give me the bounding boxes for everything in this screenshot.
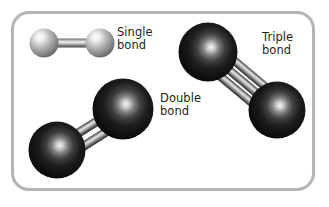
- triple-bond-atom-upper-left: [179, 23, 238, 82]
- label-triple-bond: Triple bond: [262, 31, 293, 56]
- label-double-bond: Double bond: [160, 92, 201, 117]
- single-bond-atom-right: [86, 29, 115, 58]
- double-bond-atom-upper-right: [93, 79, 154, 140]
- single-bond-atom-left: [30, 29, 59, 58]
- single-bond-molecule: [30, 29, 115, 58]
- triple-bond-atom-lower-right: [249, 82, 306, 139]
- double-bond-molecule: [29, 79, 154, 179]
- label-single-bond: Single bond: [117, 26, 153, 51]
- double-bond-atom-lower-left: [29, 122, 86, 179]
- diagram-canvas: Single bond Double bond Triple bond: [0, 0, 329, 207]
